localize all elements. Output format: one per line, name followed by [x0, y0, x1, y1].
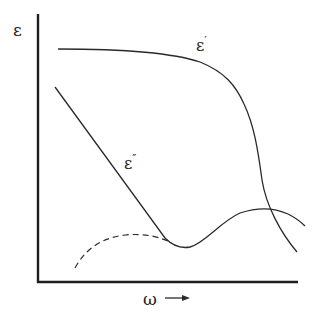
epsilon-prime-label: ε′ [196, 38, 207, 54]
y-axis-label: ε [13, 22, 22, 39]
x-axis-arrow-icon [182, 295, 190, 301]
dielectric-diagram [0, 0, 317, 315]
epsilon-prime-curve [58, 49, 297, 252]
epsilon-double-prime-label: ε″ [124, 156, 136, 172]
epsilon-double-prime-dashed-curve [75, 234, 172, 268]
epsilon-double-prime-curve [55, 87, 305, 248]
x-axis-label: ω [143, 291, 157, 308]
